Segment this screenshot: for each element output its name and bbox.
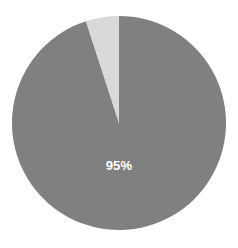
pie-chart-container: 95%: [0, 0, 238, 248]
pie-chart-svg: 95%: [0, 0, 238, 248]
pie-slice-majority-label: 95%: [106, 158, 133, 173]
pie-slices-group: [12, 16, 226, 230]
